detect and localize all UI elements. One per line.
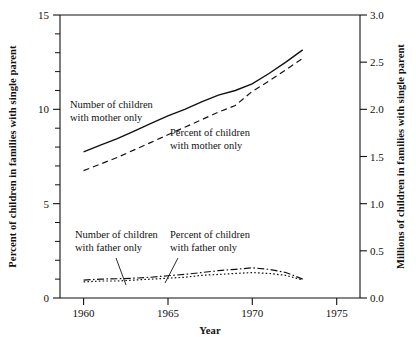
xtick-label-1975: 1975 — [326, 307, 349, 319]
xtick-label-1965: 1965 — [157, 307, 180, 319]
chart-figure: 0 5 10 15 0.0 0.5 1.0 1.5 2.0 2.5 3.0 19… — [0, 0, 416, 338]
ytick-right-label-2.5: 2.5 — [370, 56, 384, 68]
x-axis-title: Year — [199, 325, 221, 336]
ytick-label-15: 15 — [38, 9, 50, 21]
annot-mother-number-line1: Number of children — [70, 99, 154, 110]
xtick-label-1970: 1970 — [241, 307, 264, 319]
single-parent-children-line-chart: 0 5 10 15 0.0 0.5 1.0 1.5 2.0 2.5 3.0 19… — [0, 0, 416, 338]
annot-father-percent-line2: with father only — [170, 242, 238, 253]
ytick-right-label-3.0: 3.0 — [370, 9, 384, 21]
ytick-right-label-2.0: 2.0 — [370, 103, 384, 115]
annot-mother-percent-line2: with mother only — [170, 140, 243, 151]
ytick-right-label-0.0: 0.0 — [370, 292, 384, 304]
y-axis-left-title: Percent of children in families with sin… — [7, 45, 18, 268]
annot-mother-percent-line1: Percent of children — [170, 127, 251, 138]
ytick-label-5: 5 — [44, 198, 50, 210]
ytick-right-label-0.5: 0.5 — [370, 245, 384, 257]
annot-father-percent-line1: Percent of children — [170, 229, 251, 240]
annot-mother-number-line2: with mother only — [70, 112, 143, 123]
annot-father-number-line1: Number of children — [75, 229, 159, 240]
annot-father-number-line2: with father only — [75, 242, 143, 253]
ytick-label-10: 10 — [38, 103, 50, 115]
ytick-right-label-1.0: 1.0 — [370, 198, 384, 210]
xtick-label-1960: 1960 — [73, 307, 96, 319]
ytick-right-label-1.5: 1.5 — [370, 151, 384, 163]
chart-background — [0, 0, 416, 338]
y-axis-right-title: Millions of children in families with si… — [395, 44, 406, 269]
ytick-label-0: 0 — [44, 292, 50, 304]
